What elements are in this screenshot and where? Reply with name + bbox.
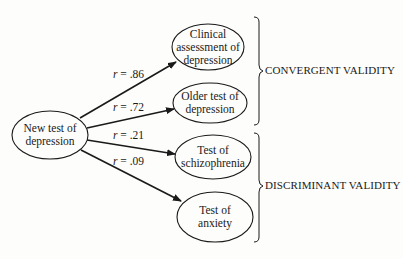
equals-sign: = — [117, 68, 129, 80]
node-new-test-label: New test of depression — [23, 122, 76, 148]
node-schizophrenia-label: Test of schizophrenia — [181, 144, 245, 170]
r-value: .86 — [130, 68, 144, 80]
equals-sign: = — [117, 155, 129, 167]
brace-convergent — [254, 17, 263, 125]
node-text-line: depression — [181, 103, 238, 116]
r-value: .09 — [130, 155, 144, 167]
correlation-label-schizophrenia: r = .21 — [113, 129, 144, 141]
node-anxiety-label: Test of anxiety — [198, 204, 232, 230]
correlation-label-clinical: r = .86 — [113, 68, 144, 80]
equals-sign: = — [117, 101, 129, 113]
node-text-line: New test of — [23, 122, 76, 135]
correlation-label-anxiety: r = .09 — [113, 155, 144, 167]
node-text-line: Older test of — [181, 90, 238, 103]
node-text-line: anxiety — [198, 217, 232, 230]
node-text-line: assessment of — [176, 41, 240, 54]
node-text-line: schizophrenia — [181, 157, 245, 170]
node-text-line: depression — [23, 135, 76, 148]
arrow-to-schizophrenia — [87, 140, 175, 154]
brace-discriminant — [254, 133, 263, 242]
r-value: .21 — [130, 129, 144, 141]
equals-sign: = — [117, 129, 129, 141]
node-text-line: Test of — [198, 204, 232, 217]
discriminant-validity-label: DISCRIMINANT VALIDITY — [265, 179, 401, 191]
node-text-line: depression — [176, 54, 240, 67]
r-value: .72 — [130, 101, 144, 113]
node-clinical-label: Clinical assessment of depression — [176, 28, 240, 67]
node-text-line: Test of — [181, 144, 245, 157]
node-older-label: Older test of depression — [181, 90, 238, 116]
correlation-label-older: r = .72 — [113, 101, 144, 113]
convergent-validity-label: CONVERGENT VALIDITY — [265, 64, 395, 76]
node-text-line: Clinical — [176, 28, 240, 41]
